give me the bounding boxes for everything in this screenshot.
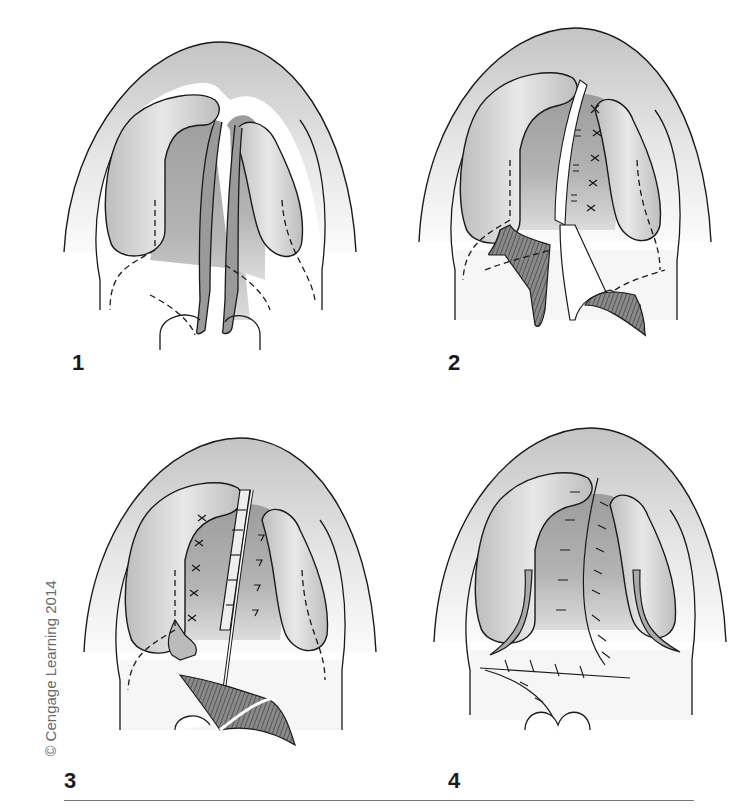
copyright-notice: © Cengage Learning 2014 <box>42 569 59 769</box>
panel-3 <box>80 430 380 750</box>
panel-number-1: 1 <box>72 350 84 376</box>
palate-cleft-illustration <box>60 30 360 350</box>
panel-number-3: 3 <box>64 768 76 794</box>
panel-number-2: 2 <box>448 350 460 376</box>
panel-4 <box>430 420 730 740</box>
palate-flap-illustration <box>415 20 715 340</box>
panel-number-4: 4 <box>448 768 460 794</box>
palate-repair-illustration <box>80 430 380 750</box>
bottom-divider <box>64 800 694 801</box>
panel-2 <box>415 20 715 340</box>
palate-closed-illustration <box>430 420 730 740</box>
panel-1 <box>60 30 360 350</box>
